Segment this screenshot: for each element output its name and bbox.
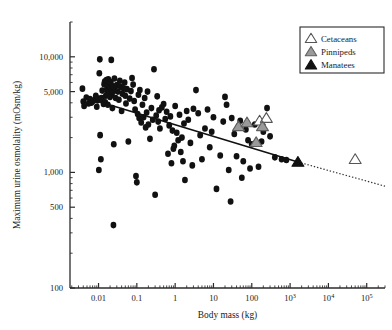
data-point-terrestrial [140, 101, 146, 108]
data-point-terrestrial [199, 156, 205, 163]
x-axis-tick-label: 0.1 [131, 293, 142, 303]
data-point-terrestrial [220, 118, 226, 125]
x-axis-tick-label: 103 [284, 292, 296, 303]
data-point-terrestrial [145, 121, 151, 128]
data-point-terrestrial [202, 125, 208, 132]
data-point-terrestrial [152, 192, 158, 199]
x-axis-title: Body mass (kg) [198, 310, 257, 321]
y-axis-tick-label: 1,000 [44, 167, 63, 177]
legend-label-pinnipeds[interactable]: Pinnipeds [321, 47, 356, 57]
data-point-terrestrial [97, 56, 103, 63]
data-point-terrestrial [226, 167, 232, 174]
data-point-terrestrial [207, 144, 213, 151]
data-point-terrestrial [171, 142, 177, 149]
data-point-terrestrial [151, 66, 157, 73]
legend-box[interactable]: CetaceansPinnipedsManatees [300, 27, 384, 73]
data-point-terrestrial [189, 162, 195, 169]
x-axis-tick-label: 100 [245, 293, 258, 303]
data-point-terrestrial [108, 57, 114, 64]
data-point-terrestrial [214, 186, 220, 193]
x-axis-tick-label: 1 [173, 293, 177, 303]
data-point-terrestrial [131, 98, 137, 105]
x-axis-tick-label: 104 [323, 292, 335, 303]
data-point-terrestrial [137, 87, 143, 94]
data-point-terrestrial [205, 106, 211, 113]
x-axis-tick-label: 0.01 [91, 293, 106, 303]
y-axis-tick-label: 100 [50, 283, 63, 293]
data-point-terrestrial [147, 136, 153, 143]
data-point-terrestrial [133, 173, 139, 180]
data-point-terrestrial [184, 108, 190, 115]
regression-line-dotted [298, 162, 385, 186]
data-point-terrestrial [234, 153, 240, 160]
x-axis-tick-label: 105 [361, 292, 373, 303]
data-point-terrestrial [177, 111, 183, 118]
data-point-terrestrial [149, 105, 155, 112]
data-point-terrestrial [165, 150, 171, 157]
data-point-terrestrial [96, 70, 102, 77]
data-point-terrestrial [157, 125, 163, 132]
data-point-terrestrial [167, 113, 173, 120]
data-point-terrestrial [94, 103, 100, 110]
chart-figure: 1005001,0005,00010,0000.010.111010010310… [0, 0, 392, 330]
scatter-plot-svg: 1005001,0005,00010,0000.010.111010010310… [0, 0, 392, 330]
data-point-terrestrial [224, 101, 230, 108]
data-point-terrestrial [231, 131, 237, 138]
data-point-terrestrial [116, 96, 122, 103]
data-point-terrestrial [154, 93, 160, 100]
data-point-terrestrial [195, 110, 201, 117]
data-point-terrestrial [174, 130, 180, 137]
data-point-terrestrial [169, 160, 175, 167]
data-point-terrestrial [172, 103, 178, 110]
legend-label-manatees[interactable]: Manatees [321, 60, 355, 70]
data-point-terrestrial [145, 88, 151, 95]
data-point-terrestrial [239, 174, 245, 181]
data-point-terrestrial [125, 138, 131, 145]
data-point-terrestrial [209, 128, 215, 135]
data-point-terrestrial [180, 158, 186, 165]
data-point-terrestrial [142, 95, 148, 102]
data-point-terrestrial [240, 158, 246, 165]
data-point-terrestrial [264, 105, 270, 112]
data-point-terrestrial [161, 101, 167, 108]
data-point-cetaceans [349, 154, 361, 164]
data-point-terrestrial [188, 140, 194, 147]
data-point-terrestrial [98, 156, 104, 163]
data-point-terrestrial [130, 81, 136, 88]
y-axis-title: Maximum urine osmolality (mOsm/kg) [12, 81, 23, 229]
data-point-terrestrial [112, 75, 118, 82]
data-point-terrestrial [111, 141, 117, 148]
y-axis-tick-label: 10,000 [39, 52, 63, 62]
data-point-terrestrial [256, 163, 262, 170]
data-point-terrestrial [267, 133, 273, 140]
data-point-terrestrial [129, 75, 135, 82]
data-point-terrestrial [228, 198, 234, 205]
data-point-terrestrial [247, 165, 253, 172]
y-axis-tick-label: 500 [50, 202, 63, 212]
x-axis-tick-label: 10 [209, 293, 218, 303]
y-axis-tick-label: 5,000 [44, 87, 63, 97]
data-point-terrestrial [178, 149, 184, 156]
legend-label-cetaceans[interactable]: Cetaceans [321, 34, 357, 44]
data-point-terrestrial [185, 117, 191, 124]
data-point-terrestrial [211, 114, 217, 121]
marine-mammal-markers-layer [233, 113, 362, 167]
data-point-terrestrial [128, 88, 134, 95]
data-point-terrestrial [97, 132, 103, 139]
data-point-terrestrial [222, 94, 228, 101]
data-point-terrestrial [182, 177, 188, 184]
data-point-terrestrial [111, 222, 117, 229]
data-point-terrestrial [191, 105, 197, 112]
data-point-terrestrial [134, 179, 140, 186]
data-point-terrestrial [122, 79, 128, 86]
data-point-terrestrial [80, 85, 86, 92]
axis-labels-layer: Body mass (kg)Maximum urine osmolality (… [12, 81, 257, 321]
data-point-terrestrial [217, 152, 223, 159]
data-point-terrestrial [229, 115, 235, 122]
data-point-terrestrial [179, 134, 185, 141]
data-point-terrestrial [193, 87, 199, 94]
data-point-terrestrial [96, 167, 102, 174]
